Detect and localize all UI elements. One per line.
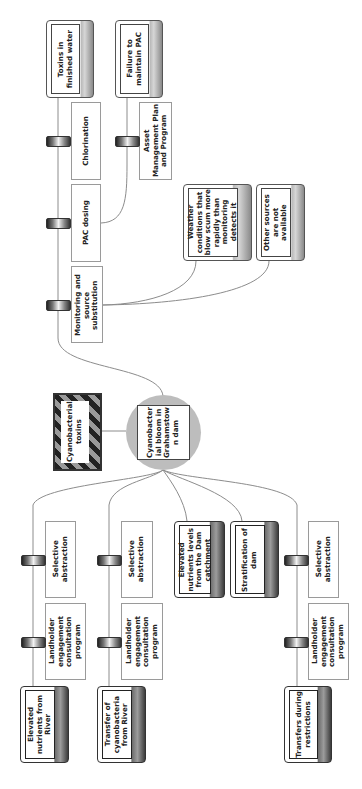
barrier-icon — [21, 555, 46, 566]
barrier-icon — [115, 136, 140, 147]
hazard-box[interactable]: Cyanobacterial toxins — [53, 393, 102, 471]
barrier-icon — [284, 555, 309, 566]
escalation-inner: Weather conditions that blow scum more r… — [188, 188, 238, 257]
threat-box[interactable]: Transfer of cyanobacteria from River — [97, 686, 146, 763]
threat-inner: Transfer of cyanobacteria from River — [102, 690, 132, 759]
barrier-box-selective-abstraction[interactable]: Selective abstraction — [308, 521, 339, 598]
threat-label: Stratification of dam — [241, 528, 258, 592]
barrier-label: Landholder engagement consultation progr… — [48, 616, 82, 667]
barrier-box-landholder-engagement[interactable]: Landholder engagement consultation progr… — [45, 603, 86, 680]
threat-label: Transfers during restrictions — [295, 691, 312, 758]
consequence-inner: Toxins in finished water — [51, 24, 80, 94]
escalation-factor-box[interactable]: Weather conditions that blow scum more r… — [183, 184, 252, 261]
barrier-icon — [284, 637, 309, 648]
threat-label: Transfer of cyanobacteria from River — [104, 696, 130, 753]
consequence-box[interactable]: Toxins in finished water — [46, 20, 94, 98]
escalation-factor-label: Failure to maintain PAC — [126, 32, 143, 86]
threat-inner: Transfers during restrictions — [289, 690, 318, 759]
barrier-label: Selective abstraction — [128, 536, 145, 582]
escalation-inner: Failure to maintain PAC — [120, 24, 149, 94]
top-event-label: Cyanobacter ial bloom in Grahamstow n da… — [146, 407, 180, 458]
barrier-box-selective-abstraction[interactable]: Selective abstraction — [121, 521, 153, 598]
barrier-icon — [46, 218, 71, 229]
barrier-icon — [21, 637, 46, 648]
threat-box[interactable]: Elevated nutrients from River — [20, 686, 69, 763]
escalation-factor-label: Weather conditions that blow scum more r… — [187, 189, 239, 255]
barrier-label: Landholder engagement consultation progr… — [311, 616, 345, 667]
barrier-icon — [97, 555, 122, 566]
threat-label: Elevated nutrients levels from the Dam c… — [178, 528, 212, 592]
top-event-box: Cyanobacter ial bloom in Grahamstow n da… — [137, 405, 190, 460]
barrier-label: Landholder engagement consultation progr… — [125, 616, 159, 667]
barrier-box-monitoring[interactable]: Monitoring and source substitution — [71, 266, 103, 343]
barrier-label: Chlorination — [82, 116, 91, 166]
threat-label: Elevated nutrients from River — [27, 695, 53, 754]
escalation-factor-label: Other sources are not available — [263, 189, 289, 256]
barrier-box-selective-abstraction[interactable]: Selective abstraction — [45, 521, 76, 598]
escalation-factor-box[interactable]: Failure to maintain PAC — [115, 20, 163, 98]
barrier-label: Selective abstraction — [315, 536, 332, 582]
barrier-box-pac-dosing[interactable]: PAC dosing — [71, 184, 101, 262]
barrier-label: Monitoring and source substitution — [74, 274, 100, 336]
barrier-icon — [46, 136, 71, 147]
barrier-box-landholder-engagement[interactable]: Landholder engagement consultation progr… — [308, 603, 349, 680]
threat-box[interactable]: Stratification of dam — [230, 521, 279, 598]
threat-inner: Elevated nutrients from River — [25, 690, 55, 759]
threat-inner: Stratification of dam — [235, 525, 265, 594]
threat-box[interactable]: Transfers during restrictions — [284, 686, 332, 763]
barrier-label: PAC dosing — [82, 200, 91, 245]
barrier-icon — [46, 300, 71, 311]
barrier-label: Selective abstraction — [52, 536, 69, 582]
barrier-box-landholder-engagement[interactable]: Landholder engagement consultation progr… — [121, 603, 163, 680]
consequence-label: Toxins in finished water — [57, 30, 74, 88]
barrier-label: Asset Management Plan and Program — [143, 104, 169, 177]
threat-box[interactable]: Elevated nutrients levels from the Dam c… — [174, 521, 225, 598]
threat-inner: Elevated nutrients levels from the Dam c… — [179, 525, 211, 594]
hazard-label: Cyanobacterial toxins — [66, 401, 83, 463]
barrier-box-chlorination[interactable]: Chlorination — [71, 102, 101, 180]
escalation-factor-box[interactable]: Other sources are not available — [256, 184, 305, 261]
hazard-inner: Cyanobacterial toxins — [61, 401, 89, 463]
barrier-icon — [97, 637, 122, 648]
escalation-inner: Other sources are not available — [261, 188, 291, 257]
barrier-box-asset-management[interactable]: Asset Management Plan and Program — [139, 102, 172, 180]
top-event-circle[interactable]: Cyanobacter ial bloom in Grahamstow n da… — [126, 395, 201, 470]
